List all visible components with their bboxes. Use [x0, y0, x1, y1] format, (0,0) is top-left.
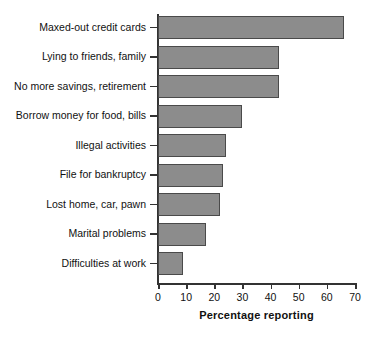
- category-label: Lying to friends, family: [0, 50, 146, 62]
- value-tick: [355, 283, 357, 289]
- category-label: File for bankruptcy: [0, 168, 146, 180]
- category-tick: [150, 233, 158, 235]
- category-tick: [150, 204, 158, 206]
- category-tick: [150, 174, 158, 176]
- category-label: Marital problems: [0, 227, 146, 239]
- x-axis-title: Percentage reporting: [158, 309, 355, 321]
- category-tick: [150, 115, 158, 117]
- value-tick-label: 60: [315, 291, 339, 303]
- value-tick-label: 0: [146, 291, 170, 303]
- bar-row: [158, 105, 242, 128]
- bar-row: [158, 16, 344, 39]
- value-tick: [299, 283, 301, 289]
- bar-row: [158, 252, 183, 275]
- value-tick: [186, 283, 188, 289]
- value-tick: [327, 283, 329, 289]
- category-label: Maxed-out credit cards: [0, 21, 146, 33]
- bar-chart: Maxed-out credit cardsLying to friends, …: [0, 0, 376, 339]
- category-label: Illegal activities: [0, 139, 146, 151]
- value-tick: [271, 283, 273, 289]
- bar-row: [158, 223, 206, 246]
- bar: [158, 193, 220, 216]
- bar-row: [158, 164, 223, 187]
- value-tick-label: 40: [259, 291, 283, 303]
- value-tick: [242, 283, 244, 289]
- value-tick-label: 10: [174, 291, 198, 303]
- bar-row: [158, 193, 220, 216]
- plot-area: [158, 15, 355, 283]
- category-tick: [150, 263, 158, 265]
- value-tick-label: 20: [202, 291, 226, 303]
- bar: [158, 134, 226, 157]
- bar: [158, 105, 242, 128]
- value-tick-label: 30: [230, 291, 254, 303]
- category-label: Lost home, car, pawn: [0, 198, 146, 210]
- bar: [158, 252, 183, 275]
- category-tick: [150, 56, 158, 58]
- value-tick: [158, 283, 160, 289]
- category-label: No more savings, retirement: [0, 80, 146, 92]
- bar: [158, 164, 223, 187]
- bar-row: [158, 46, 279, 69]
- bar: [158, 223, 206, 246]
- category-label: Difficulties at work: [0, 257, 146, 269]
- value-tick-label: 70: [343, 291, 367, 303]
- bar: [158, 16, 344, 39]
- category-tick: [150, 86, 158, 88]
- category-tick: [150, 27, 158, 29]
- value-tick: [214, 283, 216, 289]
- category-label: Borrow money for food, bills: [0, 109, 146, 121]
- bar: [158, 75, 279, 98]
- bar-row: [158, 75, 279, 98]
- category-tick: [150, 145, 158, 147]
- bar-row: [158, 134, 226, 157]
- bar: [158, 46, 279, 69]
- value-tick-label: 50: [287, 291, 311, 303]
